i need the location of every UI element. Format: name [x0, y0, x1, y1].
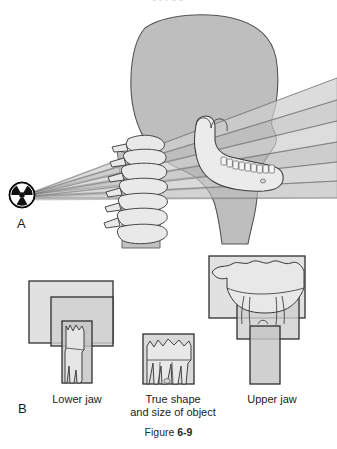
figure-caption-word: Figure [145, 426, 175, 438]
figure-caption: Figure 6-9 [0, 426, 337, 438]
label-true-shape: True shape and size of object [118, 393, 228, 419]
figure-artwork [0, 0, 337, 449]
panel-b-true-shape-group [143, 334, 194, 384]
label-lower-jaw: Lower jaw [25, 393, 129, 406]
radiation-source-icon [9, 182, 35, 208]
figure-caption-number: 6-9 [177, 426, 192, 438]
panel-b-upper-jaw-group [209, 256, 305, 384]
cervical-vertebrae [104, 135, 167, 243]
figure-container: g p y g g [0, 0, 337, 449]
panel-b-lower-jaw-group [29, 281, 113, 383]
elongated-tooth [65, 325, 84, 383]
panel-letter-a: A [17, 216, 26, 231]
label-upper-jaw: Upper jaw [222, 393, 322, 406]
